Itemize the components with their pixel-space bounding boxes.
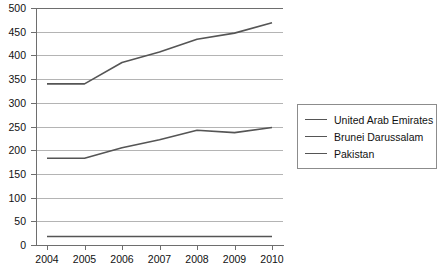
series-line-united-arab-emirates — [47, 23, 272, 84]
legend-label-united-arab-emirates: United Arab Emirates — [334, 114, 433, 126]
legend-label-pakistan: Pakistan — [334, 148, 374, 160]
series-line-brunei-darussalam — [47, 127, 272, 158]
legend-line-swatch-icon — [305, 153, 327, 154]
legend-item-united-arab-emirates[interactable]: United Arab Emirates — [298, 111, 436, 128]
legend-item-pakistan[interactable]: Pakistan — [298, 145, 436, 162]
legend-item-brunei-darussalam[interactable]: Brunei Darussalam — [298, 128, 436, 145]
legend-line-swatch-icon — [305, 119, 327, 120]
legend-line-swatch-icon — [305, 136, 327, 137]
legend-label-brunei-darussalam: Brunei Darussalam — [334, 131, 423, 143]
legend: United Arab Emirates Brunei Darussalam P… — [297, 104, 437, 169]
